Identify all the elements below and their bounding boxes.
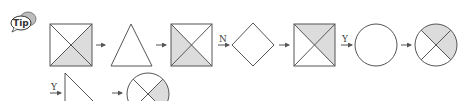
square-1 (50, 24, 92, 66)
tip-label: Tip (13, 18, 29, 28)
circle-x-row2 (127, 73, 169, 101)
circle-x (415, 24, 457, 66)
square-2 (171, 24, 212, 66)
right-triangle (65, 73, 93, 101)
diamond (232, 23, 274, 66)
tip-badge-icon: Tip (11, 12, 36, 32)
label-y-2: Y (50, 82, 58, 92)
square-3 (294, 24, 335, 66)
shape-sequence-diagram: Tip N Y (0, 0, 462, 101)
label-n: N (219, 34, 227, 44)
circle (355, 24, 397, 66)
label-y-1: Y (341, 34, 349, 44)
triangle (111, 24, 152, 66)
